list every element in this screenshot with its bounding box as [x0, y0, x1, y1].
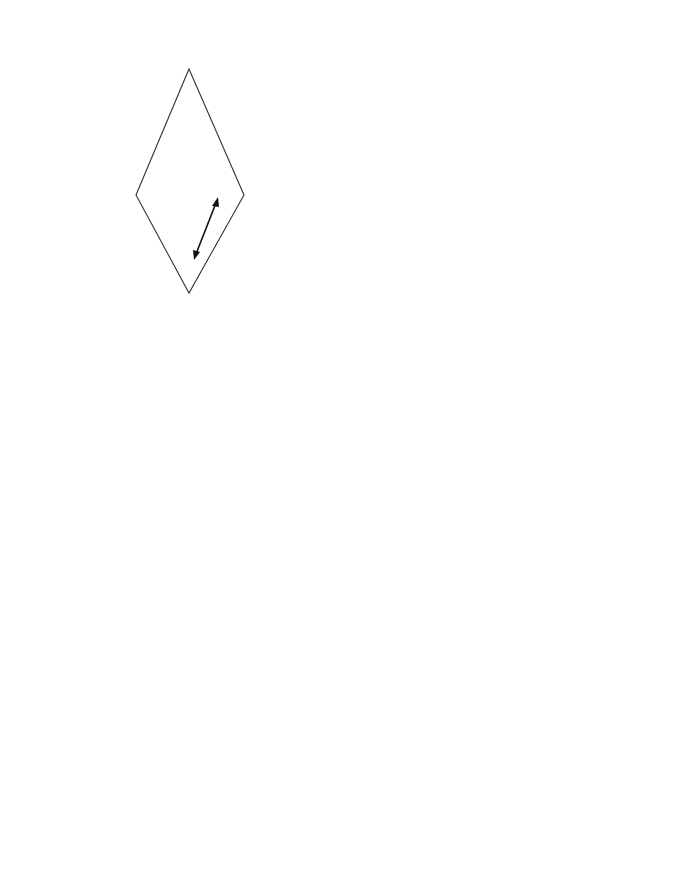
pattern-piece-diamond [136, 69, 244, 293]
diagram-canvas [0, 0, 685, 871]
double-arrow-icon [193, 197, 219, 260]
